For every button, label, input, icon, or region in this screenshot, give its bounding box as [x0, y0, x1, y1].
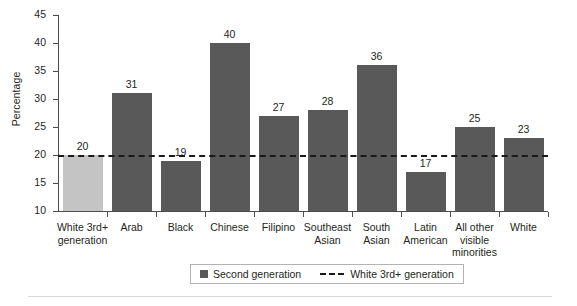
bar-value-label: 31 — [126, 78, 138, 90]
y-axis-tick: 40 — [53, 43, 58, 44]
x-axis-tick — [303, 212, 304, 217]
x-axis-tick — [401, 212, 402, 217]
x-axis-tick — [548, 212, 549, 217]
bar-value-label: 23 — [518, 123, 530, 135]
bar-value-label: 17 — [420, 157, 432, 169]
bar-value-label: 27 — [273, 101, 285, 113]
bar: 23 — [504, 138, 544, 211]
x-axis-tick — [352, 212, 353, 217]
y-axis-tick: 15 — [53, 183, 58, 184]
x-axis-category-label-line: visible — [441, 234, 508, 247]
legend-label-white-3rd-generation: White 3rd+ generation — [350, 268, 454, 280]
reference-line-white-3rd-generation — [58, 155, 548, 157]
x-axis-category-label-line: minorities — [441, 246, 508, 259]
bar-value-label: 25 — [469, 112, 481, 124]
y-axis-tick: 30 — [53, 99, 58, 100]
plot-area: 4540353025201510 20311940272836172523 — [58, 15, 548, 212]
y-axis-tick: 45 — [53, 15, 58, 16]
y-axis-tick-label: 40 — [34, 36, 46, 48]
x-axis-tick — [205, 212, 206, 217]
x-axis-tick — [156, 212, 157, 217]
bar: 25 — [455, 127, 495, 211]
bar-value-label: 28 — [322, 95, 334, 107]
bottom-divider — [28, 296, 552, 297]
x-axis-tick — [499, 212, 500, 217]
bar-value-label: 20 — [77, 140, 89, 152]
bar-value-label: 36 — [371, 50, 383, 62]
x-axis-tick — [107, 212, 108, 217]
bar: 40 — [210, 43, 250, 211]
legend-swatch-dashed-line-icon — [320, 273, 344, 275]
y-axis-tick-label: 20 — [34, 148, 46, 160]
y-axis-tick-label: 25 — [34, 120, 46, 132]
x-axis-category-label-line: generation — [49, 234, 116, 247]
x-axis-category-label-line: White — [490, 221, 557, 234]
bar: 31 — [112, 93, 152, 211]
legend-item-white-3rd-generation: White 3rd+ generation — [320, 268, 454, 280]
y-axis-title: Percentage — [10, 54, 22, 144]
x-axis-category-label: White — [490, 221, 557, 234]
legend-item-second-generation: Second generation — [200, 268, 301, 280]
y-axis-tick: 10 — [53, 211, 58, 212]
y-axis-tick: 35 — [53, 71, 58, 72]
x-axis-tick — [450, 212, 451, 217]
y-axis-tick-label: 35 — [34, 64, 46, 76]
y-axis-tick-label: 30 — [34, 92, 46, 104]
bar: 20 — [63, 155, 103, 211]
bar: 17 — [406, 172, 446, 211]
y-axis-line — [58, 15, 59, 212]
y-axis-tick: 25 — [53, 127, 58, 128]
bar: 28 — [308, 110, 348, 211]
bar: 36 — [357, 65, 397, 211]
bar: 27 — [259, 116, 299, 211]
bar: 19 — [161, 161, 201, 211]
bar-value-label: 40 — [224, 28, 236, 40]
chart-legend: Second generation White 3rd+ generation — [190, 264, 464, 284]
y-axis-tick-label: 15 — [34, 176, 46, 188]
chart-figure: Percentage 4540353025201510 203119402728… — [0, 0, 577, 306]
x-axis-tick — [254, 212, 255, 217]
legend-swatch-square-icon — [200, 270, 208, 278]
y-axis-tick-label: 10 — [34, 204, 46, 216]
y-axis-tick-label: 45 — [34, 8, 46, 20]
legend-label-second-generation: Second generation — [213, 268, 301, 280]
